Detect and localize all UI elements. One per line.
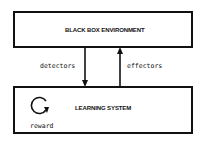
detectors-arrow (82, 48, 88, 87)
learning-system-label: LEARNING SYSTEM (75, 105, 131, 111)
effectors-arrow (117, 47, 123, 86)
detectors-label: detectors (40, 62, 75, 70)
reward-loop-icon (27, 92, 57, 122)
reward-label: reward (30, 122, 53, 130)
effectors-label: effectors (127, 62, 162, 70)
learning-system-box: reward LEARNING SYSTEM (13, 86, 193, 134)
